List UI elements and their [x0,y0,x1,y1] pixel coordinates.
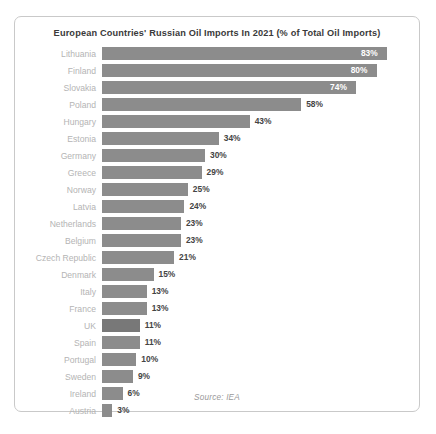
bar [102,47,387,60]
bar-value-label: 34% [219,132,241,145]
bar-row: Estonia34% [15,130,421,147]
bar [102,98,301,111]
bar-track: 58% [102,98,421,111]
bar-track: 80% [102,64,421,77]
bar-row: Austria3% [15,402,421,419]
bar-track: 43% [102,115,421,128]
bar-track: 29% [102,166,421,179]
bar-category-label: Norway [15,185,102,195]
bar [102,404,112,417]
bar-row: Czech Republic21% [15,249,421,266]
bar [102,285,147,298]
bar-row: Poland58% [15,96,421,113]
bar-row: Latvia24% [15,198,421,215]
bar-track: 11% [102,336,421,349]
bar-value-label: 83% [361,47,378,60]
bar-track: 23% [102,217,421,230]
bar [102,336,140,349]
bar-category-label: Austria [15,406,102,416]
bar-value-label: 9% [133,370,150,383]
bar-track: 21% [102,251,421,264]
bar-category-label: Greece [15,168,102,178]
bar [102,132,219,145]
bar-value-label: 74% [330,81,347,94]
bar-category-label: Netherlands [15,219,102,229]
bar-category-label: Spain [15,338,102,348]
bar-category-label: Poland [15,100,102,110]
bar [102,200,184,213]
bar-row: Sweden9% [15,368,421,385]
bar [102,64,377,77]
bar-value-label: 25% [188,183,210,196]
bar-category-label: Latvia [15,202,102,212]
bar-row: Finland80% [15,62,421,79]
chart-source-note: Source: IEA [15,393,419,402]
bar-category-label: Slovakia [15,83,102,93]
bar-category-label: Sweden [15,372,102,382]
bar-value-label: 80% [351,64,368,77]
bar [102,319,140,332]
bar-category-label: Germany [15,151,102,161]
bar-value-label: 13% [147,302,169,315]
bar [102,115,250,128]
bar [102,217,181,230]
bar-category-label: Italy [15,287,102,297]
bar-value-label: 11% [140,336,161,349]
bar-category-label: France [15,304,102,314]
bar-track: 23% [102,234,421,247]
bar-category-label: Hungary [15,117,102,127]
bar-category-label: Czech Republic [15,253,102,263]
bar-row: Greece29% [15,164,421,181]
bar-row: Germany30% [15,147,421,164]
bar-value-label: 30% [205,149,227,162]
bar-row: France13% [15,300,421,317]
bar-value-label: 13% [147,285,169,298]
bar-value-label: 29% [202,166,224,179]
bar-row: Italy13% [15,283,421,300]
bar [102,149,205,162]
bar [102,302,147,315]
bar-track: 83% [102,47,421,60]
bar-chart-plot: Lithuania83%Finland80%Slovakia74%Poland5… [15,45,421,419]
bar [102,353,136,366]
bar [102,251,174,264]
bar-track: 74% [102,81,421,94]
bar-track: 11% [102,319,421,332]
bar-value-label: 3% [112,404,129,417]
bar-row: Spain11% [15,334,421,351]
bar-category-label: Finland [15,66,102,76]
bar-category-label: UK [15,321,102,331]
bar [102,370,133,383]
bar-track: 34% [102,132,421,145]
bar-track: 13% [102,302,421,315]
bar-row: Lithuania83% [15,45,421,62]
bar-category-label: Belgium [15,236,102,246]
bar-category-label: Estonia [15,134,102,144]
bar [102,234,181,247]
bar-value-label: 23% [181,217,203,230]
bar-row: Netherlands23% [15,215,421,232]
bar-track: 15% [102,268,421,281]
bar-value-label: 43% [250,115,272,128]
bar-value-label: 11% [140,319,161,332]
bar-row: Norway25% [15,181,421,198]
bar-value-label: 24% [184,200,206,213]
bar-row: Belgium23% [15,232,421,249]
bar-track: 13% [102,285,421,298]
bar-category-label: Denmark [15,270,102,280]
bar-track: 3% [102,404,421,417]
bar [102,268,154,281]
bar-category-label: Lithuania [15,49,102,59]
bar [102,166,202,179]
bar-row: Slovakia74% [15,79,421,96]
bar-track: 25% [102,183,421,196]
bar-row: UK11% [15,317,421,334]
bar-category-label: Portugal [15,355,102,365]
bar-row: Denmark15% [15,266,421,283]
chart-card: European Countries' Russian Oil Imports … [14,16,420,412]
bar-value-label: 23% [181,234,203,247]
bar-track: 30% [102,149,421,162]
bar-track: 24% [102,200,421,213]
bar-row: Hungary43% [15,113,421,130]
bar-value-label: 21% [174,251,196,264]
